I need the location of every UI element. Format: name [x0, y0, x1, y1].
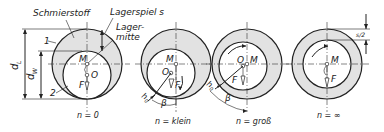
state-n-infinity: [286, 14, 370, 112]
label-O-1: O: [91, 70, 98, 80]
label-M-1: M: [79, 54, 87, 64]
label-beta-3: β: [224, 93, 231, 103]
label-F-4: F: [331, 74, 337, 84]
label-part-2: 2: [50, 88, 56, 98]
label-O-3: O: [237, 55, 244, 65]
state-n-large: [206, 22, 292, 113]
label-O-2: O: [162, 67, 169, 77]
label-F-3: F: [232, 75, 238, 85]
label-d-bearing: d L: [9, 61, 22, 70]
label-h0-2: h 0: [139, 91, 151, 104]
label-F-2: F: [175, 80, 181, 90]
label-M-4: M: [331, 55, 339, 65]
label-lubricant: Schmierstoff: [33, 8, 92, 18]
label-M-3: M: [250, 55, 258, 65]
state-n-zero: [22, 18, 130, 112]
svg-text:L: L: [15, 61, 22, 64]
label-beta-2: β: [160, 98, 167, 108]
caption-n-large: n = groß: [236, 117, 271, 126]
caption-n-zero: n = 0: [77, 111, 99, 120]
label-clearance: Lagerspiel s: [110, 7, 164, 17]
label-bearing-center-1: Lager-: [116, 22, 144, 32]
label-part-1: 1: [44, 36, 50, 46]
label-F-1: F: [79, 80, 85, 90]
label-M-2: M: [166, 54, 174, 64]
label-half-clearance: s/2: [356, 31, 365, 38]
bearing-diagram: Schmierstoff Lagerspiel s Lager- mitte 1…: [0, 0, 384, 132]
caption-n-infinity: n = ∞: [317, 111, 341, 120]
svg-text:W: W: [31, 67, 38, 74]
label-d-shaft: d W: [25, 67, 38, 80]
label-bearing-center-2: mitte: [116, 32, 140, 42]
caption-n-small: n = klein: [155, 117, 191, 126]
